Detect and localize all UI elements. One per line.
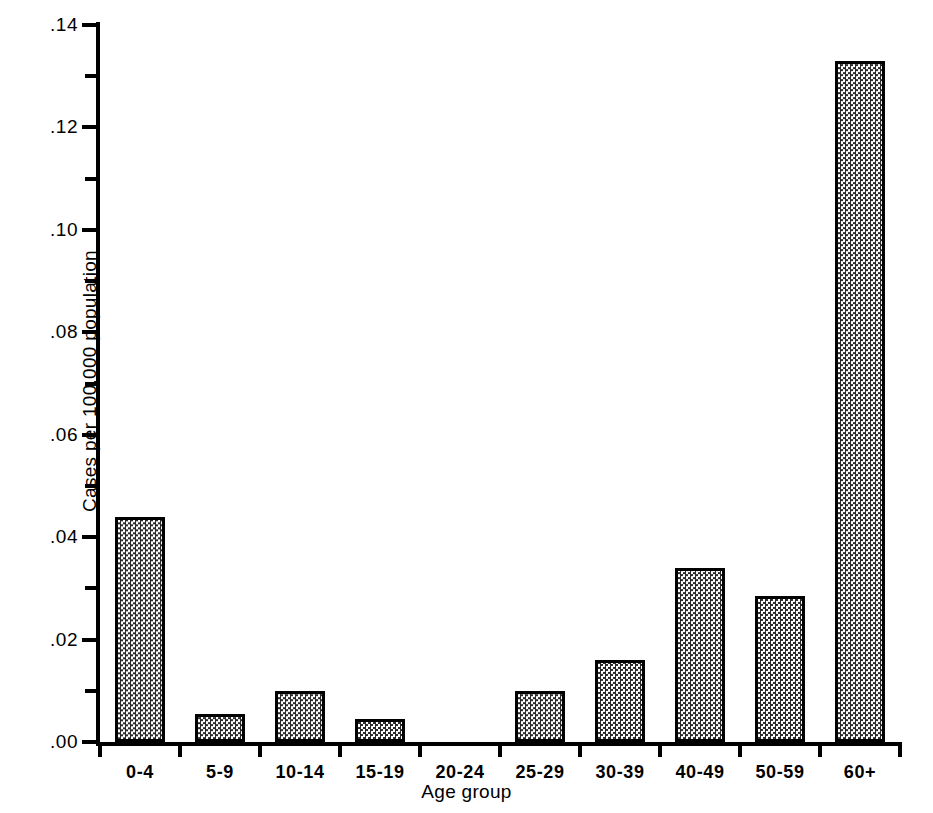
y-tick-minor [85,74,96,78]
y-tick-label: .06 [50,424,78,446]
y-tick-major [82,740,96,744]
y-tick-minor [85,177,96,181]
y-tick-major [82,125,96,129]
y-tick-minor [85,279,96,283]
x-tick-label: 50-59 [755,762,804,783]
x-axis-title: Age group [0,781,933,803]
y-tick-label: .02 [50,629,78,651]
x-tick [658,742,662,757]
plot-area: .00.02.04.06.08.10.12.14 0-45-910-1415-1… [100,25,900,742]
y-tick-label: .08 [50,321,78,343]
y-tick-major [82,228,96,232]
x-tick-label: 25-29 [515,762,564,783]
x-tick [578,742,582,757]
x-tick-label: 30-39 [595,762,644,783]
y-tick-label: .14 [50,14,78,36]
y-tick-minor [85,689,96,693]
y-tick-major [82,535,96,539]
y-tick-label: .00 [50,731,78,753]
x-tick-label: 15-19 [355,762,404,783]
y-axis-spine [96,22,100,745]
bar [835,61,885,742]
y-tick-major [82,23,96,27]
x-tick [818,742,822,757]
x-tick [498,742,502,757]
x-tick [418,742,422,757]
x-tick [738,742,742,757]
x-tick-label: 10-14 [275,762,324,783]
bar [275,691,325,742]
bar-chart-figure: Cases per 100,000 population .00.02.04.0… [0,0,933,813]
y-tick-minor [85,484,96,488]
y-tick-label: .04 [50,526,78,548]
y-tick-major [82,330,96,334]
bar [115,517,165,742]
x-tick-label: 20-24 [435,762,484,783]
x-tick-label: 60+ [844,762,876,783]
x-tick [258,742,262,757]
y-tick-major [82,433,96,437]
x-tick-label: 0-4 [126,762,154,783]
x-tick [338,742,342,757]
bar [675,568,725,742]
bar [195,714,245,742]
y-tick-minor [85,382,96,386]
x-tick [898,742,902,757]
x-tick-label: 40-49 [675,762,724,783]
y-tick-minor [85,586,96,590]
x-tick [98,742,102,757]
bar [355,719,405,742]
y-tick-major [82,638,96,642]
bar [595,660,645,742]
y-tick-label: .10 [50,219,78,241]
y-tick-label: .12 [50,116,78,138]
bar [755,596,805,742]
bar [515,691,565,742]
x-tick-label: 5-9 [206,762,234,783]
x-tick [178,742,182,757]
